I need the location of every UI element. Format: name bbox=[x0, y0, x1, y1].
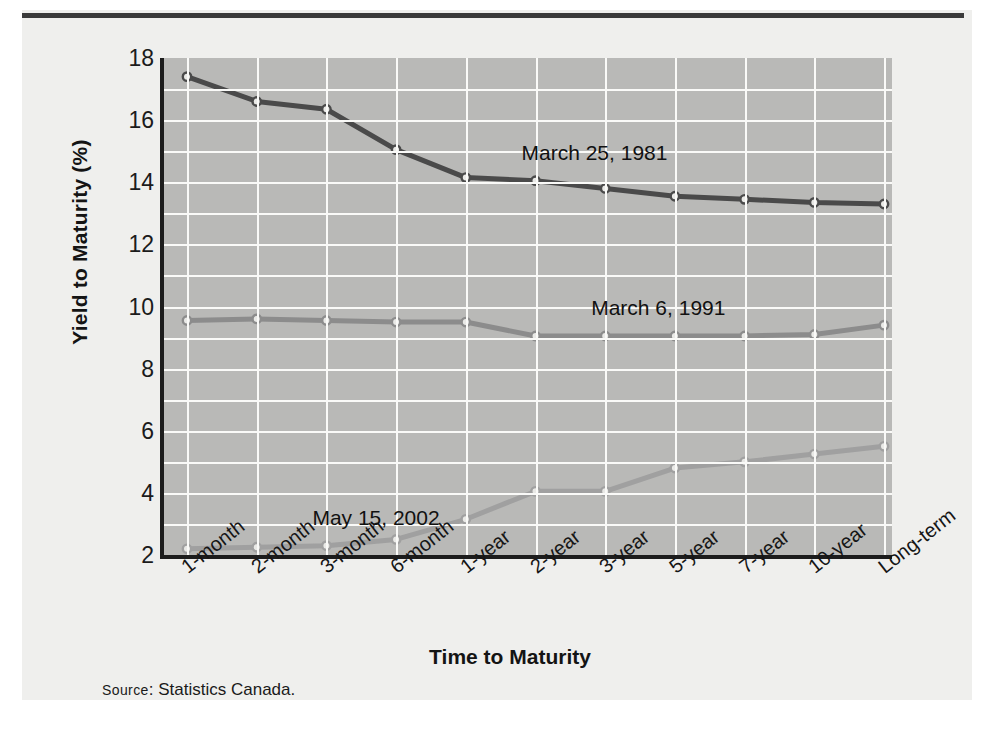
gridline-vertical bbox=[466, 58, 468, 555]
series-annotation: May 15, 2002 bbox=[312, 506, 439, 530]
gridline-horizontal bbox=[164, 462, 892, 464]
gridline-vertical bbox=[884, 58, 886, 555]
source-note: Source: Statistics Canada. bbox=[102, 680, 295, 700]
y-tick-label: 8 bbox=[110, 355, 154, 382]
gridline-vertical bbox=[745, 58, 747, 555]
series-annotation: March 25, 1981 bbox=[522, 141, 668, 165]
gridline-vertical bbox=[814, 58, 816, 555]
y-tick-label: 18 bbox=[110, 45, 154, 72]
gridline-horizontal bbox=[164, 120, 892, 122]
y-tick-label: 16 bbox=[110, 107, 154, 134]
source-label: Source bbox=[102, 682, 149, 698]
gridline-vertical bbox=[257, 58, 259, 555]
gridline-horizontal bbox=[164, 400, 892, 402]
gridline-vertical bbox=[536, 58, 538, 555]
gridline-horizontal bbox=[164, 307, 892, 309]
gridline-horizontal bbox=[164, 89, 892, 91]
plot-area bbox=[160, 58, 892, 559]
gridline-horizontal bbox=[164, 338, 892, 340]
y-axis-title: Yield to Maturity (%) bbox=[68, 102, 92, 382]
gridline-vertical bbox=[396, 58, 398, 555]
y-tick-label: 10 bbox=[110, 293, 154, 320]
y-tick-label: 14 bbox=[110, 169, 154, 196]
gridline-horizontal bbox=[164, 275, 892, 277]
series-annotation: March 6, 1991 bbox=[591, 296, 725, 320]
y-tick-label: 12 bbox=[110, 231, 154, 258]
gridline-horizontal bbox=[164, 524, 892, 526]
source-text: : Statistics Canada. bbox=[149, 680, 295, 699]
y-tick-label: 6 bbox=[110, 417, 154, 444]
x-axis-ticks: 1-month2-month3-month6-month1-year2-year… bbox=[160, 560, 920, 650]
y-tick-label: 2 bbox=[110, 542, 154, 569]
gridline-vertical bbox=[187, 58, 189, 555]
figure-container: Yield to Maturity (%) 24681012141618 1-m… bbox=[0, 0, 988, 749]
gridline-horizontal bbox=[164, 431, 892, 433]
gridline-vertical bbox=[326, 58, 328, 555]
gridline-horizontal bbox=[164, 244, 892, 246]
y-tick-label: 4 bbox=[110, 479, 154, 506]
gridline-horizontal bbox=[164, 493, 892, 495]
gridline-horizontal bbox=[164, 182, 892, 184]
gridline-horizontal bbox=[164, 369, 892, 371]
x-axis-title: Time to Maturity bbox=[300, 645, 720, 669]
y-axis-ticks: 24681012141618 bbox=[96, 58, 154, 555]
gridline-horizontal bbox=[164, 213, 892, 215]
top-rule-divider bbox=[22, 13, 964, 18]
